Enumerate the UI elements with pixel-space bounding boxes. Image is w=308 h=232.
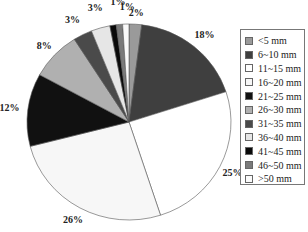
legend-item: 26~30 mm xyxy=(245,103,304,117)
legend-swatch xyxy=(245,175,253,183)
legend-swatch xyxy=(245,51,253,59)
legend-swatch xyxy=(245,37,253,45)
legend-label: 46~50 mm xyxy=(258,160,301,171)
legend-item: 21~25 mm xyxy=(245,89,304,103)
legend-swatch xyxy=(245,64,253,72)
legend-swatch xyxy=(245,78,253,86)
legend-label: >50 mm xyxy=(258,173,292,184)
legend-label: 31~35 mm xyxy=(258,118,301,129)
legend-label: 41~45 mm xyxy=(258,146,301,157)
slice-percent-label: 12% xyxy=(0,102,20,113)
legend-item: 6~10 mm xyxy=(245,48,304,62)
legend-label: <5 mm xyxy=(258,35,287,46)
legend-swatch xyxy=(245,161,253,169)
slice-percent-label: 18% xyxy=(194,29,214,40)
legend-item: <5 mm xyxy=(245,34,304,48)
legend-label: 6~10 mm xyxy=(258,49,296,60)
legend-label: 26~30 mm xyxy=(258,104,301,115)
slice-percent-label: 26% xyxy=(63,214,83,225)
legend-item: >50 mm xyxy=(245,172,304,186)
legend-item: 36~40 mm xyxy=(245,131,304,145)
legend-item: 11~15 mm xyxy=(245,62,304,76)
slice-percent-label: 8% xyxy=(37,40,52,51)
legend-label: 21~25 mm xyxy=(258,91,301,102)
legend-swatch xyxy=(245,92,253,100)
legend-swatch xyxy=(245,133,253,141)
legend-swatch xyxy=(245,147,253,155)
legend-label: 36~40 mm xyxy=(258,132,301,143)
legend-label: 11~15 mm xyxy=(258,63,301,74)
pie-slices xyxy=(27,24,231,220)
legend-swatch xyxy=(245,106,253,114)
slice-percent-label: 3% xyxy=(88,2,103,13)
chart-legend: <5 mm 6~10 mm 11~15 mm 16~20 mm 21~25 mm… xyxy=(240,29,305,185)
legend-item: 16~20 mm xyxy=(245,75,304,89)
slice-percent-label: 1% xyxy=(120,1,135,12)
legend-swatch xyxy=(245,120,253,128)
legend-item: 46~50 mm xyxy=(245,158,304,172)
slice-percent-label: 3% xyxy=(65,14,80,25)
legend-label: 16~20 mm xyxy=(258,77,301,88)
legend-item: 31~35 mm xyxy=(245,117,304,131)
legend-item: 41~45 mm xyxy=(245,144,304,158)
